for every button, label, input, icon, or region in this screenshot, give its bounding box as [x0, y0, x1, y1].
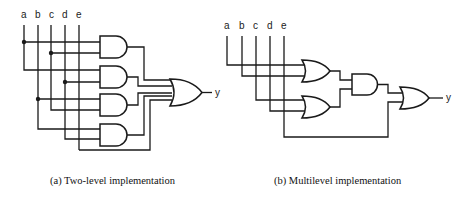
- wire-or2-and: [330, 89, 352, 107]
- input-label-e: e: [281, 20, 287, 31]
- input-label-b: b: [239, 20, 245, 31]
- or-gate-1: [302, 60, 330, 82]
- and-gate-2: [100, 66, 127, 88]
- wire-b: [38, 25, 100, 129]
- input-label-c: c: [49, 9, 54, 20]
- wire-c: [51, 25, 100, 110]
- multilevel-circuit: a b c d e y (b) Multilevel implementatio…: [224, 20, 451, 187]
- circuit-diagrams: a b c d e: [0, 0, 466, 201]
- and-gate-1: [100, 36, 127, 58]
- wire-and1-or: [127, 47, 172, 80]
- output-label-y: y: [215, 87, 220, 98]
- wire-b: [242, 36, 305, 76]
- caption-b: (b) Multilevel implementation: [274, 175, 402, 187]
- junction-dot: [49, 51, 53, 55]
- wire-c: [256, 36, 305, 100]
- input-label-e: e: [76, 9, 82, 20]
- junction-dot: [22, 40, 26, 44]
- input-label-d: d: [267, 20, 273, 31]
- output-label-y: y: [446, 92, 451, 103]
- and-gate-3: [100, 94, 127, 116]
- input-label-b: b: [35, 9, 41, 20]
- wire-or1-and: [330, 71, 352, 80]
- input-label-d: d: [62, 9, 68, 20]
- wire-and-or3: [377, 85, 403, 94]
- and-gate: [352, 74, 377, 95]
- input-label-a: a: [21, 9, 27, 20]
- junction-dot: [36, 97, 40, 101]
- or-gate: [170, 79, 202, 106]
- or-gate-2: [302, 96, 330, 118]
- junction-dot: [63, 80, 67, 84]
- or-gate-3: [400, 87, 429, 109]
- and-gate-4: [100, 124, 127, 146]
- wire-a: [227, 36, 305, 65]
- input-label-c: c: [253, 20, 258, 31]
- input-label-a: a: [224, 20, 230, 31]
- wire-and2-or: [127, 77, 172, 86]
- two-level-circuit: a b c d e: [21, 9, 220, 187]
- wire-e: [284, 36, 403, 137]
- wire-a: [24, 25, 100, 70]
- caption-a: (a) Two-level implementation: [50, 175, 176, 187]
